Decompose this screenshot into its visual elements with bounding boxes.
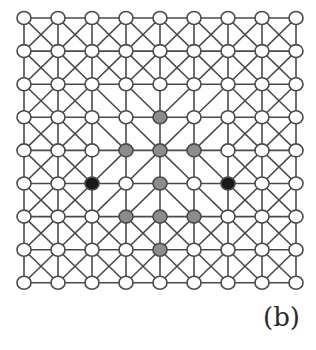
empty-node xyxy=(255,144,269,157)
panel-label: (b) xyxy=(263,302,300,332)
empty-node xyxy=(289,144,303,157)
empty-node xyxy=(51,111,65,124)
empty-node xyxy=(289,111,303,124)
empty-node xyxy=(153,45,167,58)
empty-node xyxy=(153,276,167,289)
empty-node xyxy=(119,12,133,25)
black-node xyxy=(221,177,235,190)
empty-node xyxy=(221,12,235,25)
empty-node xyxy=(119,243,133,256)
empty-node xyxy=(51,210,65,223)
gray-node xyxy=(153,111,167,124)
empty-node xyxy=(17,45,31,58)
empty-node xyxy=(221,78,235,91)
empty-node xyxy=(289,177,303,190)
empty-node xyxy=(51,276,65,289)
empty-node xyxy=(221,276,235,289)
black-node xyxy=(85,177,99,190)
empty-node xyxy=(51,78,65,91)
empty-node xyxy=(289,12,303,25)
empty-node xyxy=(153,78,167,91)
empty-node xyxy=(187,111,201,124)
empty-node xyxy=(51,243,65,256)
empty-node xyxy=(17,276,31,289)
empty-node xyxy=(17,144,31,157)
empty-node xyxy=(255,78,269,91)
empty-node xyxy=(85,78,99,91)
empty-node xyxy=(85,12,99,25)
gray-node xyxy=(187,210,201,223)
empty-node xyxy=(221,210,235,223)
lattice-diagram xyxy=(0,0,316,300)
empty-node xyxy=(85,144,99,157)
empty-node xyxy=(17,12,31,25)
gray-node xyxy=(187,144,201,157)
empty-node xyxy=(119,111,133,124)
empty-node xyxy=(221,111,235,124)
lattice-nodes xyxy=(17,12,303,290)
empty-node xyxy=(153,12,167,25)
empty-node xyxy=(119,276,133,289)
empty-node xyxy=(255,243,269,256)
empty-node xyxy=(187,12,201,25)
empty-node xyxy=(85,210,99,223)
gray-node xyxy=(153,243,167,256)
empty-node xyxy=(17,243,31,256)
empty-node xyxy=(85,276,99,289)
empty-node xyxy=(119,177,133,190)
empty-node xyxy=(255,111,269,124)
empty-node xyxy=(51,12,65,25)
empty-node xyxy=(85,243,99,256)
empty-node xyxy=(255,210,269,223)
gray-node xyxy=(153,210,167,223)
gray-node xyxy=(153,177,167,190)
empty-node xyxy=(17,78,31,91)
gray-node xyxy=(119,210,133,223)
empty-node xyxy=(85,111,99,124)
empty-node xyxy=(187,276,201,289)
gray-node xyxy=(119,144,133,157)
empty-node xyxy=(255,276,269,289)
empty-node xyxy=(119,45,133,58)
empty-node xyxy=(255,45,269,58)
empty-node xyxy=(187,45,201,58)
empty-node xyxy=(289,276,303,289)
empty-node xyxy=(187,78,201,91)
empty-node xyxy=(119,78,133,91)
empty-node xyxy=(51,144,65,157)
empty-node xyxy=(221,45,235,58)
empty-node xyxy=(289,78,303,91)
empty-node xyxy=(289,210,303,223)
empty-node xyxy=(187,243,201,256)
empty-node xyxy=(289,45,303,58)
empty-node xyxy=(187,177,201,190)
empty-node xyxy=(51,177,65,190)
empty-node xyxy=(85,45,99,58)
empty-node xyxy=(51,45,65,58)
empty-node xyxy=(289,243,303,256)
empty-node xyxy=(17,210,31,223)
empty-node xyxy=(255,177,269,190)
empty-node xyxy=(221,243,235,256)
empty-node xyxy=(17,111,31,124)
gray-node xyxy=(153,144,167,157)
empty-node xyxy=(255,12,269,25)
empty-node xyxy=(17,177,31,190)
empty-node xyxy=(221,144,235,157)
